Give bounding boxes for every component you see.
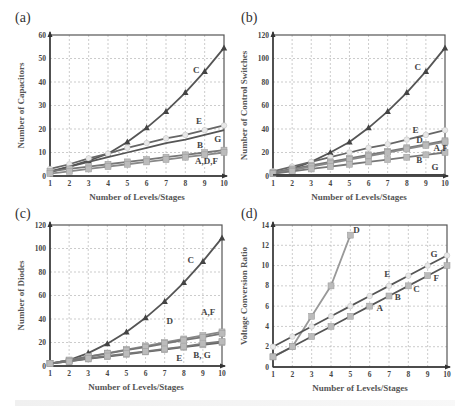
x-tick-label: 7 — [386, 179, 390, 188]
circle-marker-icon — [183, 132, 189, 138]
circle-marker-icon — [406, 273, 412, 279]
series-label: A — [376, 303, 383, 313]
x-tick-label: 1 — [271, 370, 275, 379]
y-tick-label: 0 — [265, 172, 269, 181]
square-marker-icon — [366, 153, 372, 159]
x-tick-label: 9 — [201, 369, 205, 378]
y-axis-arrow-icon — [48, 31, 53, 37]
x-tick-label: 5 — [348, 370, 352, 379]
x-tick-label: 5 — [348, 179, 352, 188]
y-tick-label: 6 — [265, 302, 269, 311]
circle-marker-icon — [367, 293, 373, 299]
square-marker-icon — [162, 346, 168, 352]
y-tick-label: 10 — [262, 261, 270, 270]
square-marker-icon — [309, 313, 315, 319]
y-tick-label: 40 — [262, 125, 270, 134]
y-tick-label: 4 — [265, 322, 269, 331]
x-tick-label: 7 — [164, 179, 168, 188]
square-marker-icon — [385, 150, 391, 156]
y-tick-label: 120 — [258, 31, 270, 40]
x-tick-label: 6 — [368, 370, 372, 379]
square-marker-icon — [308, 166, 314, 172]
x-tick-label: 2 — [290, 179, 294, 188]
square-marker-icon — [124, 161, 130, 167]
series-label: A,D,F — [195, 156, 218, 166]
square-marker-icon — [181, 337, 187, 343]
square-marker-icon — [143, 348, 149, 354]
circle-marker-icon — [105, 151, 111, 157]
circle-marker-icon — [163, 136, 169, 142]
triangle-marker-icon — [442, 44, 448, 50]
y-axis-title: Number of Control Switches — [239, 50, 249, 160]
y-axis-title: Number of Diodes — [16, 260, 26, 330]
x-tick-label: 9 — [426, 370, 430, 379]
x-axis-arrow-icon — [220, 364, 226, 369]
series-label: B — [416, 155, 422, 165]
square-marker-icon — [289, 168, 295, 174]
square-marker-icon — [423, 142, 429, 148]
y-tick-label: 40 — [39, 315, 47, 324]
square-marker-icon — [219, 331, 225, 337]
circle-marker-icon — [385, 141, 391, 147]
x-tick-label: 6 — [367, 179, 371, 188]
series-label: E — [413, 125, 419, 135]
x-tick-label: 10 — [220, 179, 228, 188]
series-label: D — [416, 135, 423, 145]
panel-b: (b) 12345678910020406080100120Number of … — [235, 0, 471, 200]
series-label: E — [176, 353, 182, 363]
square-marker-icon — [328, 323, 334, 329]
y-tick-label: 20 — [39, 125, 47, 134]
square-marker-icon — [423, 152, 429, 158]
square-marker-icon — [104, 353, 110, 359]
circle-marker-icon — [366, 145, 372, 151]
x-tick-label: 1 — [48, 179, 52, 188]
circle-marker-icon — [423, 132, 429, 138]
y-tick-label: 50 — [39, 54, 47, 63]
y-tick-label: 80 — [262, 78, 270, 87]
square-marker-icon — [327, 164, 333, 170]
x-axis-arrow-icon — [222, 174, 228, 179]
square-marker-icon — [309, 334, 315, 340]
circle-marker-icon — [144, 140, 150, 146]
series-label: D — [353, 225, 360, 235]
triangle-marker-icon — [221, 44, 227, 50]
square-marker-icon — [66, 168, 72, 174]
square-marker-icon — [386, 293, 392, 299]
x-tick-label: 4 — [329, 370, 333, 379]
square-marker-icon — [123, 351, 129, 357]
y-tick-label: 14 — [262, 221, 270, 230]
grid — [273, 225, 447, 367]
y-axis-arrow-icon — [271, 31, 276, 37]
x-tick-label: 10 — [218, 369, 226, 378]
circle-marker-icon — [86, 156, 92, 162]
y-tick-label: 20 — [39, 338, 47, 347]
y-axis-arrow-icon — [48, 221, 53, 227]
circle-marker-icon — [347, 150, 353, 156]
x-tick-label: 9 — [424, 179, 428, 188]
y-tick-label: 0 — [42, 172, 46, 181]
circle-marker-icon — [270, 344, 276, 350]
circle-marker-icon — [202, 127, 208, 133]
x-tick-label: 7 — [387, 370, 391, 379]
series-label: G — [432, 162, 439, 172]
y-axis-title: Voltage Conversion Ratio — [239, 246, 249, 345]
circle-marker-icon — [386, 283, 392, 289]
y-tick-label: 40 — [39, 78, 47, 87]
y-tick-label: 8 — [265, 281, 269, 290]
square-marker-icon — [144, 159, 150, 165]
x-tick-label: 10 — [441, 179, 449, 188]
y-axis-title: Number of Capacitors — [16, 62, 26, 148]
x-tick-label: 2 — [67, 179, 71, 188]
series-label: C — [193, 65, 200, 75]
series-label: F — [433, 273, 439, 283]
square-marker-icon — [328, 283, 334, 289]
x-axis-title: Number of Levels/Stages — [312, 383, 408, 393]
square-marker-icon — [346, 161, 352, 167]
y-tick-label: 80 — [39, 268, 47, 277]
series-label: E — [196, 116, 202, 126]
square-marker-icon — [404, 154, 410, 160]
square-marker-icon — [105, 164, 111, 170]
triangle-marker-icon — [219, 234, 225, 240]
circle-marker-icon — [404, 137, 410, 143]
y-tick-label: 2 — [265, 342, 269, 351]
